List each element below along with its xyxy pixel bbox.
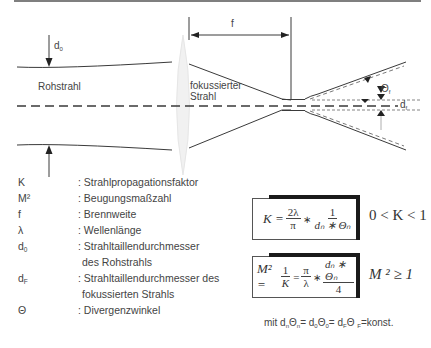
times-operator: ∗	[313, 272, 321, 283]
fraction: 1dₙ ∗ Θₙ	[313, 206, 353, 232]
focused-beam-lower	[189, 110, 291, 148]
legend-symbol: Θ	[18, 302, 58, 318]
raw-beam-lower	[17, 145, 172, 150]
k-formula-box: K = 2λπ ∗ 1dₙ ∗ Θₙ	[252, 198, 357, 240]
d0-subscript: 0	[60, 46, 63, 52]
m2-condition-text: M ² ≥ 1	[369, 266, 413, 282]
legend-description: : Brennweite	[78, 206, 136, 222]
raw-beam-label: Rohstrahl	[38, 81, 81, 92]
legend-symbol: λ	[18, 222, 58, 238]
theta-subscript: f	[389, 89, 391, 95]
arrow-up-icon	[46, 145, 53, 154]
k-lhs: K =	[263, 211, 284, 227]
legend-symbol: f	[18, 206, 58, 222]
legend-symbol: M²	[18, 190, 58, 206]
m2-lhs: M² =	[257, 261, 278, 293]
focused-beam-label-2: Strahl	[190, 91, 216, 102]
m2-formula-box: M² = 1K = πλ ∗ dₙ ∗ Θₙ4	[252, 256, 357, 298]
df-arrow-up-icon	[377, 110, 385, 116]
legend-description: : Strahltaillendurchmesser	[78, 238, 199, 254]
legend-description: fokussierten Strahls	[82, 286, 174, 302]
legend-symbol: K	[18, 174, 58, 190]
fraction: dₙ ∗ Θₙ4	[323, 258, 354, 296]
theta-label: Θf	[381, 83, 390, 95]
beam-focusing-diagram	[0, 0, 431, 348]
legend-symbol: d0	[18, 238, 58, 258]
constant-note: mit dnΘn= d0Θ0= dFΘ F=konst.	[264, 317, 393, 329]
legend-description: : Strahltaillendurchmesser des	[78, 270, 219, 286]
df-label: df	[400, 99, 407, 111]
fraction: 1K	[280, 264, 291, 290]
axis-marker-icon	[361, 99, 369, 103]
arrow-left-icon	[191, 32, 199, 38]
m2-formula: M² = 1K = πλ ∗ dₙ ∗ Θₙ4	[257, 257, 356, 297]
legend-description: des Rohstrahls	[82, 254, 152, 270]
fraction: πλ	[301, 264, 311, 290]
raw-beam-upper	[17, 62, 172, 67]
arrow-right-icon	[281, 32, 289, 38]
diverging-beam-lower	[305, 111, 406, 150]
lens-shape	[177, 35, 190, 175]
theta-symbol: Θ	[381, 83, 389, 94]
diverging-beam-upper	[305, 62, 406, 99]
focused-beam-label-1: fokussierter	[190, 80, 242, 91]
legend-symbol: dF	[18, 270, 58, 290]
legend-description: : Wellenlänge	[78, 222, 141, 238]
equals-operator: =	[293, 271, 299, 283]
d0-label: d0	[54, 40, 63, 52]
fraction: 2λπ	[286, 206, 301, 232]
k-formula: K = 2λπ ∗ 1dₙ ∗ Θₙ	[263, 199, 355, 239]
df-subscript: f	[406, 105, 408, 111]
focal-length-label: f	[231, 18, 234, 29]
legend-description: : Beugungsmaßzahl	[78, 190, 171, 206]
k-condition: 0 < K < 1	[369, 207, 427, 224]
m2-condition: M ² ≥ 1	[369, 266, 413, 283]
legend-description: : Divergenzwinkel	[78, 302, 160, 318]
arrow-down-icon	[46, 58, 53, 67]
legend-description: : Strahlpropagationsfaktor	[78, 174, 198, 190]
times-operator: ∗	[303, 214, 311, 225]
asymptote-lower	[310, 111, 404, 146]
